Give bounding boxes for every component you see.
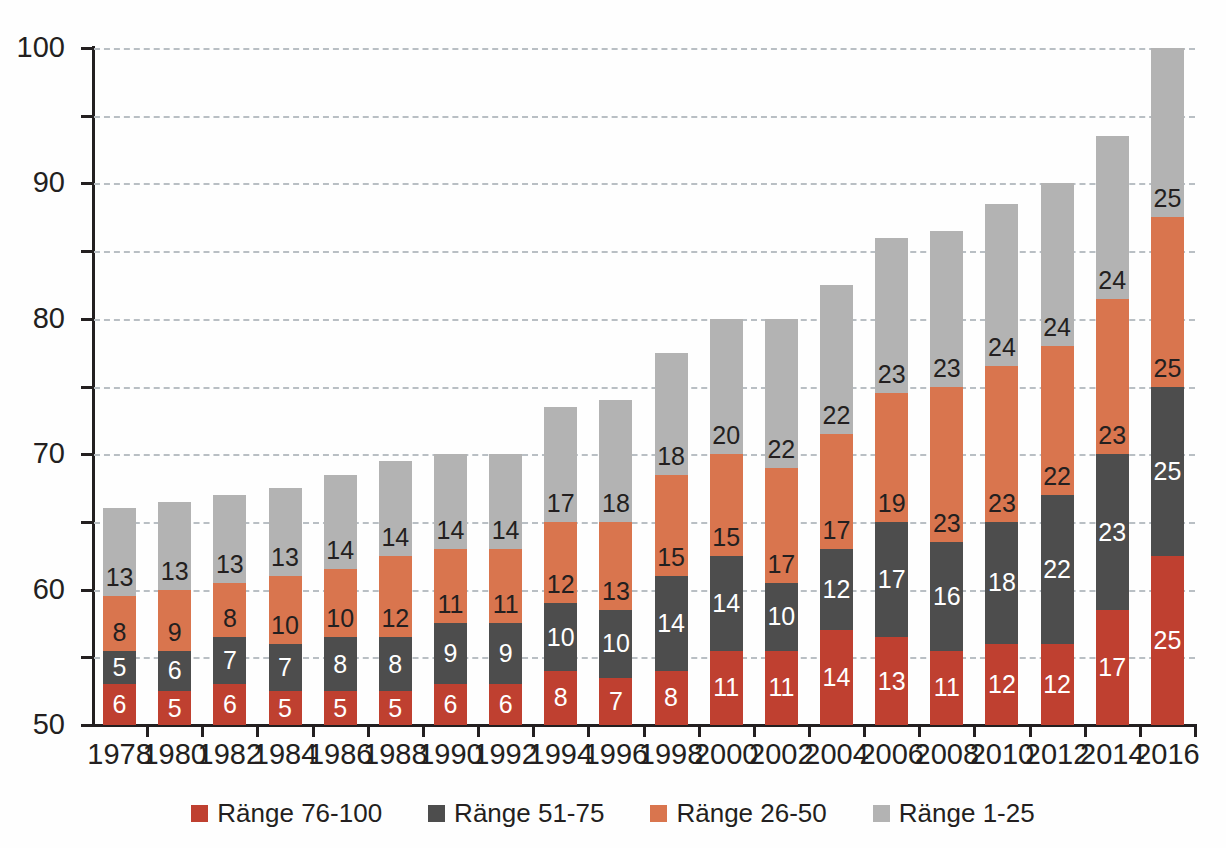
bar-group[interactable]: 691114: [489, 454, 522, 725]
bar-segment[interactable]: 8: [544, 671, 577, 725]
bar-group[interactable]: 13171923: [875, 238, 908, 725]
bar-group[interactable]: 56913: [158, 502, 191, 725]
bar-segment[interactable]: 10: [324, 569, 357, 637]
bar-group[interactable]: 65813: [103, 508, 136, 725]
bar-segment[interactable]: 5: [324, 691, 357, 725]
bar-group[interactable]: 12182324: [985, 204, 1018, 725]
bar-group[interactable]: 8141518: [655, 353, 688, 725]
bar-segment[interactable]: 19: [875, 393, 908, 522]
bar-segment[interactable]: 23: [1096, 299, 1129, 455]
bar-segment[interactable]: 14: [324, 475, 357, 570]
bar-segment[interactable]: 10: [269, 576, 302, 644]
bar-segment[interactable]: 13: [875, 637, 908, 725]
bar-group[interactable]: 8101217: [544, 407, 577, 725]
bar-segment[interactable]: 22: [820, 285, 853, 434]
bar-segment[interactable]: 11: [710, 651, 743, 725]
bar-segment[interactable]: 22: [1041, 495, 1074, 644]
bar-segment[interactable]: 18: [655, 353, 688, 475]
legend-item[interactable]: Ränge 1-25: [873, 798, 1035, 829]
bar-segment[interactable]: 24: [1096, 136, 1129, 298]
bar-segment[interactable]: 23: [930, 231, 963, 387]
bar-segment[interactable]: 15: [655, 475, 688, 577]
bar-segment[interactable]: 11: [489, 549, 522, 623]
bar-group[interactable]: 691114: [434, 454, 467, 725]
bar-segment[interactable]: 8: [103, 596, 136, 650]
bar-segment[interactable]: 15: [710, 454, 743, 556]
bar-segment[interactable]: 8: [379, 637, 412, 691]
bar-group[interactable]: 571013: [269, 488, 302, 725]
bar-segment[interactable]: 12: [379, 556, 412, 637]
bar-group[interactable]: 11141520: [710, 319, 743, 725]
bar-segment[interactable]: 18: [599, 400, 632, 522]
bar-segment[interactable]: 17: [544, 407, 577, 522]
bar-segment[interactable]: 13: [269, 488, 302, 576]
bar-segment[interactable]: 7: [213, 637, 246, 684]
bar-segment[interactable]: 14: [379, 461, 412, 556]
bar-segment[interactable]: 12: [1041, 644, 1074, 725]
bar-group[interactable]: 11101722: [765, 319, 798, 725]
bar-segment[interactable]: 5: [379, 691, 412, 725]
bar-segment[interactable]: 5: [103, 651, 136, 685]
bar-segment[interactable]: 12: [544, 522, 577, 603]
bar-segment[interactable]: 14: [710, 556, 743, 651]
bar-segment[interactable]: 9: [434, 623, 467, 684]
bar-segment[interactable]: 25: [1151, 217, 1184, 386]
bar-segment[interactable]: 5: [158, 691, 191, 725]
bar-segment[interactable]: 25: [1151, 387, 1184, 556]
bar-segment[interactable]: 10: [765, 583, 798, 651]
bar-segment[interactable]: 6: [158, 651, 191, 692]
bar-segment[interactable]: 24: [985, 204, 1018, 366]
bar-segment[interactable]: 11: [765, 651, 798, 725]
bar-segment[interactable]: 9: [158, 590, 191, 651]
bar-segment[interactable]: 14: [434, 454, 467, 549]
bar-segment[interactable]: 25: [1151, 48, 1184, 217]
bar-segment[interactable]: 14: [655, 576, 688, 671]
bar-segment[interactable]: 17: [875, 522, 908, 637]
bar-segment[interactable]: 20: [710, 319, 743, 454]
bar-segment[interactable]: 13: [599, 522, 632, 610]
bar-group[interactable]: 581014: [324, 475, 357, 725]
bar-segment[interactable]: 12: [985, 644, 1018, 725]
bar-segment[interactable]: 10: [544, 603, 577, 671]
bar-segment[interactable]: 10: [599, 610, 632, 678]
bar-segment[interactable]: 25: [1151, 556, 1184, 725]
bar-segment[interactable]: 11: [930, 651, 963, 725]
bar-segment[interactable]: 8: [324, 637, 357, 691]
bar-segment[interactable]: 9: [489, 623, 522, 684]
bar-segment[interactable]: 23: [875, 238, 908, 394]
bar-segment[interactable]: 11: [434, 549, 467, 623]
legend-item[interactable]: Ränge 26-50: [650, 798, 826, 829]
bar-segment[interactable]: 18: [985, 522, 1018, 644]
bar-segment[interactable]: 24: [1041, 183, 1074, 345]
bar-segment[interactable]: 23: [985, 366, 1018, 522]
bar-segment[interactable]: 6: [434, 684, 467, 725]
bar-segment[interactable]: 17: [765, 468, 798, 583]
legend-item[interactable]: Ränge 76-100: [191, 798, 382, 829]
bar-segment[interactable]: 22: [1041, 346, 1074, 495]
bar-segment[interactable]: 7: [269, 644, 302, 691]
bar-segment[interactable]: 23: [1096, 454, 1129, 610]
bar-group[interactable]: 14121722: [820, 285, 853, 725]
bar-segment[interactable]: 17: [820, 434, 853, 549]
bar-segment[interactable]: 7: [599, 678, 632, 725]
bar-segment[interactable]: 13: [213, 495, 246, 583]
bar-segment[interactable]: 5: [269, 691, 302, 725]
bar-segment[interactable]: 6: [213, 684, 246, 725]
bar-segment[interactable]: 14: [489, 454, 522, 549]
bar-group[interactable]: 17232324: [1096, 136, 1129, 725]
bar-group[interactable]: 25252525: [1151, 48, 1184, 725]
bar-segment[interactable]: 12: [820, 549, 853, 630]
bar-segment[interactable]: 13: [103, 508, 136, 596]
bar-segment[interactable]: 8: [213, 583, 246, 637]
bar-segment[interactable]: 23: [930, 387, 963, 543]
bar-segment[interactable]: 13: [158, 502, 191, 590]
bar-segment[interactable]: 6: [103, 684, 136, 725]
bar-group[interactable]: 12222224: [1041, 183, 1074, 725]
bar-group[interactable]: 7101318: [599, 400, 632, 725]
bar-segment[interactable]: 16: [930, 542, 963, 650]
bar-group[interactable]: 11162323: [930, 231, 963, 725]
bar-group[interactable]: 67813: [213, 495, 246, 725]
bar-segment[interactable]: 8: [655, 671, 688, 725]
bar-segment[interactable]: 6: [489, 684, 522, 725]
bar-segment[interactable]: 22: [765, 319, 798, 468]
